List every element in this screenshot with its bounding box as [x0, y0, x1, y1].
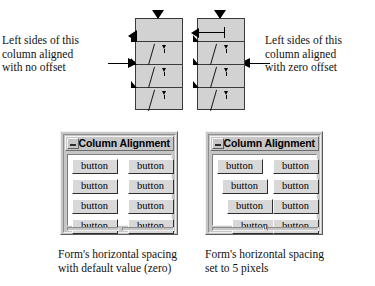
minimize-icon[interactable]: [212, 138, 224, 149]
cell-tick-stem: [164, 72, 165, 76]
left-edge-arrowhead-icon: [131, 81, 137, 88]
arrow-shaft: [249, 63, 270, 64]
left-column-button[interactable]: button: [72, 159, 118, 174]
leader-line: [148, 67, 155, 88]
top-marker-icon: [214, 10, 226, 19]
right-column-button[interactable]: button: [273, 159, 319, 174]
button-row: button button: [213, 199, 316, 214]
row-divider: [136, 87, 182, 88]
row-divider: [198, 64, 244, 65]
button-row: button button: [213, 159, 316, 174]
right-column-button[interactable]: button: [128, 159, 174, 174]
schematic-left-column: [135, 18, 183, 110]
left-annotation-label: Left sides of this column aligned with n…: [2, 34, 110, 75]
right-edge-arrowhead-icon: [193, 58, 199, 65]
button-row: button button: [68, 159, 171, 174]
left-edge-arrowhead-icon: [131, 35, 137, 42]
left-edge-arrowhead-icon: [131, 58, 137, 65]
window-column-alignment-default[interactable]: Column Alignment button button button bu…: [60, 131, 178, 235]
button-row: button button: [213, 179, 316, 194]
cell-tick-stem: [226, 72, 227, 76]
right-column-button[interactable]: button: [128, 199, 174, 214]
form-client-area: button button button button button butto…: [67, 154, 172, 226]
top-marker-icon: [152, 10, 164, 19]
leader-line: [210, 67, 217, 88]
left-column-button[interactable]: button: [222, 179, 268, 194]
minimize-icon[interactable]: [67, 138, 79, 149]
window-column-alignment-5px[interactable]: Column Alignment button button button bu…: [205, 131, 323, 235]
resize-grip[interactable]: [67, 227, 119, 231]
row-divider: [136, 64, 182, 65]
row-divider: [198, 41, 244, 42]
left-column-button[interactable]: button: [217, 159, 263, 174]
cell-tick-stem: [226, 49, 227, 53]
title-bar[interactable]: Column Alignment: [65, 136, 174, 151]
title-bar[interactable]: Column Alignment: [210, 136, 319, 151]
leader-line: [210, 44, 217, 65]
resize-grip[interactable]: [122, 227, 174, 231]
left-column-button[interactable]: button: [72, 179, 118, 194]
right-column-button[interactable]: button: [128, 179, 174, 194]
right-annotation-label: Left sides of this column aligned with z…: [265, 34, 375, 75]
cell-tick-stem: [164, 49, 165, 53]
window-title: Column Alignment: [224, 137, 318, 149]
left-column-button[interactable]: button: [72, 199, 118, 214]
right-edge-arrowhead-icon: [193, 81, 199, 88]
arrow-tail: [224, 27, 225, 38]
leader-line: [148, 90, 155, 111]
window-inner-frame: Column Alignment button button button bu…: [208, 134, 321, 233]
right-caption: Form's horizontal spacing set to 5 pixel…: [205, 248, 350, 275]
window-title: Column Alignment: [79, 137, 173, 149]
form-client-area: button button button button button butto…: [212, 154, 317, 226]
left-column-button[interactable]: button: [227, 199, 273, 214]
button-row: button button: [68, 199, 171, 214]
column-alignment-schematic: [135, 18, 245, 110]
resize-grip[interactable]: [267, 227, 319, 231]
cell-tick-stem: [164, 95, 165, 99]
row-divider: [136, 41, 182, 42]
right-column-button[interactable]: button: [273, 199, 319, 214]
row-divider: [198, 87, 244, 88]
arrow-shaft: [108, 63, 129, 64]
button-row: button button: [68, 179, 171, 194]
gutter-arrow-left-icon: [191, 27, 225, 38]
window-inner-frame: Column Alignment button button button bu…: [63, 134, 176, 233]
leader-line: [148, 44, 155, 65]
right-column-button[interactable]: button: [273, 179, 319, 194]
left-caption: Form's horizontal spacing with default v…: [58, 248, 198, 275]
cell-tick-stem: [226, 95, 227, 99]
arrow-shaft: [197, 32, 225, 33]
resize-grip[interactable]: [212, 227, 264, 231]
leader-line: [210, 90, 217, 111]
